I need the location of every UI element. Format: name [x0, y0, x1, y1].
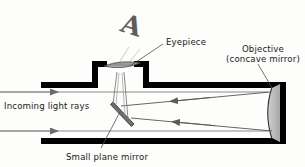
label-eyepiece: Eyepiece: [166, 37, 206, 47]
tube-wall-bottom: [41, 138, 286, 144]
tube-end-cap-right: [280, 82, 286, 144]
tube-wall-top-left: [41, 82, 98, 88]
concave-mirror: [268, 84, 280, 142]
diagram-canvas: A Eyepiece Objective (concave mirror) In…: [0, 0, 305, 167]
label-objective-line1: Objective: [242, 44, 284, 54]
label-objective-line2: (concave mirror): [226, 54, 300, 64]
tube-wall-top-right: [143, 82, 286, 88]
image-letter-glyph: A: [117, 8, 147, 43]
incoming-rays: [0, 92, 270, 131]
virtual-image-letter-a: A: [117, 8, 147, 43]
reflected-ray-lower-arrow: [172, 122, 215, 126]
reflected-rays: [121, 92, 272, 131]
label-incoming-rays: Incoming light rays: [4, 101, 90, 111]
label-plane-mirror: Small plane mirror: [66, 152, 148, 162]
telescope-diagram: A Eyepiece Objective (concave mirror) In…: [0, 0, 305, 167]
reflected-ray-upper-arrow: [170, 98, 210, 102]
